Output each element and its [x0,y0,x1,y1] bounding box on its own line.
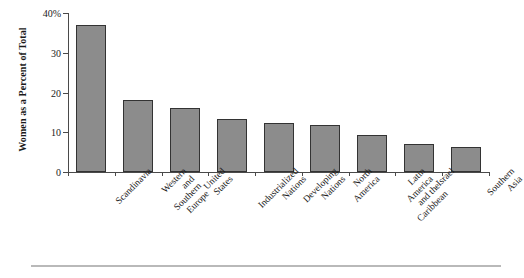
x-tick-label: Industrialized Nations [256,166,308,218]
bar [76,25,106,172]
y-axis-title: Women as a Percent of Total [17,5,28,175]
x-tick-label: Southern Asia [485,166,524,205]
x-tick-label: Western and Southern Europe [157,166,211,220]
x-tick-mark [162,172,163,176]
y-tick-label: 20 [51,87,61,98]
y-tick-label: 10 [51,127,61,138]
bar [451,147,481,172]
y-tick-mark [63,93,68,94]
bar [170,108,200,172]
y-tick-label: 0 [56,167,61,178]
bar [217,119,247,172]
y-tick-mark [63,53,68,54]
x-tick-mark [489,172,490,176]
y-tick-label: 30 [51,47,61,58]
footer-divider [31,265,501,267]
x-tick-mark-origin [68,172,69,176]
y-axis-spine [68,13,69,172]
x-tick-mark [349,172,350,176]
x-tick-mark [395,172,396,176]
y-tick-mark [63,132,68,133]
bar [264,123,294,172]
bar [123,100,153,172]
bar [310,125,340,172]
x-tick-mark [115,172,116,176]
x-tick-mark [255,172,256,176]
bar [357,135,387,172]
plot-area: 40%3020100 [68,13,489,172]
y-tick-label: 40% [43,8,61,19]
y-tick-mark [63,13,68,14]
